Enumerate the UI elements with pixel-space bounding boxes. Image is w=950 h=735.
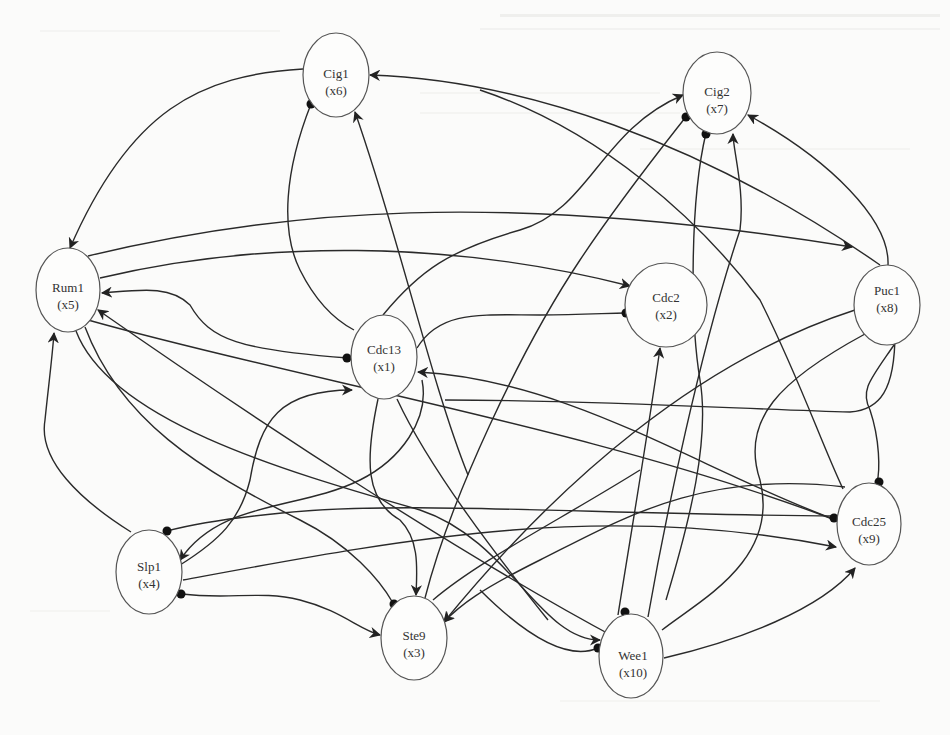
node-cdc13[interactable]: Cdc13 (x1): [351, 315, 417, 399]
node-puc1-var: (x8): [876, 300, 898, 315]
node-cig1-var: (x6): [325, 83, 347, 98]
edge-cig1-rum1: [70, 69, 303, 248]
node-wee1-var: (x10): [619, 665, 647, 680]
edge-puc1-cdc25: [866, 345, 894, 483]
node-cdc2-name: Cdc2: [652, 290, 679, 305]
node-cdc2[interactable]: Cdc2 (x2): [625, 263, 707, 347]
edge-rum1-puc1: [88, 212, 852, 256]
network-svg: Cdc13 (x1) Cdc2 (x2) Ste9 (x3) Slp1 (x4)…: [0, 0, 950, 735]
edge-puc1-cig1: [370, 75, 880, 265]
edge-rum1-cdc2: [100, 250, 630, 286]
node-rum1-var: (x5): [57, 297, 79, 312]
node-cdc25[interactable]: Cdc25 (x9): [837, 483, 901, 565]
edge-rum1-cdc13: [102, 290, 348, 358]
edge-cdc13-slp1: [180, 380, 423, 560]
node-cdc13-var: (x1): [373, 359, 395, 374]
edge-slp1-ste9: [182, 594, 380, 635]
edge-wee1-cdc2: [618, 348, 660, 615]
edge-to-wee1-inhib: [480, 590, 598, 651]
node-cig1[interactable]: Cig1 (x6): [303, 33, 369, 117]
edge-cig1-cdc13: [288, 104, 354, 330]
node-wee1-name: Wee1: [618, 648, 647, 663]
edge-cdc13-ste9: [370, 399, 417, 595]
network-diagram: Cdc13 (x1) Cdc2 (x2) Ste9 (x3) Slp1 (x4)…: [0, 0, 950, 735]
node-puc1[interactable]: Puc1 (x8): [854, 265, 920, 345]
node-ste9[interactable]: Ste9 (x3): [381, 596, 447, 680]
edge-wee1-cig2: [648, 134, 741, 617]
node-rum1[interactable]: Rum1 (x5): [36, 248, 100, 332]
node-cdc25-var: (x9): [858, 531, 880, 546]
node-cig1-name: Cig1: [323, 66, 348, 81]
edge-puc1-wee1: [662, 334, 865, 630]
node-ste9-name: Ste9: [402, 628, 425, 643]
edge-cdc13-cig1: [355, 112, 468, 475]
node-cig2[interactable]: Cig2 (x7): [683, 52, 751, 134]
node-slp1-name: Slp1: [137, 559, 161, 574]
node-cdc25-name: Cdc25: [852, 514, 886, 529]
edge-slp1-rum1: [44, 333, 131, 532]
node-slp1[interactable]: Slp1 (x4): [116, 530, 182, 614]
edge-cdc25-slp1: [167, 508, 837, 531]
edge-cdc13-cdc2: [417, 313, 625, 348]
inhibition-dots: [163, 100, 900, 653]
edge-cig2-wee1: [666, 133, 706, 600]
node-rum1-name: Rum1: [52, 280, 84, 295]
node-cig2-name: Cig2: [704, 84, 729, 99]
node-cig2-var: (x7): [706, 101, 728, 116]
node-puc1-name: Puc1: [874, 283, 900, 298]
node-wee1[interactable]: Wee1 (x10): [599, 614, 663, 698]
node-cdc2-var: (x2): [655, 307, 677, 322]
edge-puc1-cig2: [748, 115, 888, 265]
node-slp1-var: (x4): [138, 576, 160, 591]
edge-wee1-cdc25: [664, 568, 855, 658]
nodes: Cdc13 (x1) Cdc2 (x2) Ste9 (x3) Slp1 (x4)…: [36, 33, 920, 698]
edge-slp1-cdc13: [180, 390, 352, 565]
node-cdc13-name: Cdc13: [367, 342, 401, 357]
node-ste9-var: (x3): [403, 645, 425, 660]
